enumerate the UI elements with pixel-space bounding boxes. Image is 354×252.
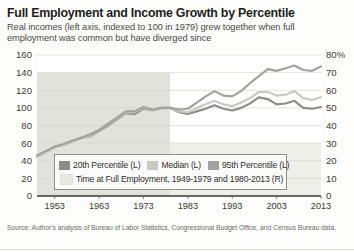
y2-axis-tick-label: 60 <box>326 85 337 96</box>
y-axis-tick-label: 60 <box>21 138 32 149</box>
x-axis-tick-label: 1983 <box>178 201 198 211</box>
y-axis-tick-label: 40 <box>21 156 32 167</box>
x-axis-tick-label: 1953 <box>45 201 65 211</box>
y2-axis-tick-label: 0 <box>326 191 331 202</box>
x-axis-tick-label: 1973 <box>133 201 153 211</box>
legend-label-median: Median (L) <box>161 160 201 170</box>
legend-swatch-median <box>147 161 158 170</box>
y2-axis-tick-label: 30 <box>326 138 337 149</box>
y-axis-tick-label: 120 <box>16 85 32 96</box>
legend-swatch-full-employment <box>60 174 73 185</box>
source-note: Source: Author's analysis of Bureau of L… <box>7 224 337 232</box>
x-axis-tick-label: 2003 <box>266 201 286 211</box>
legend-row-primary: 20th Percentile (L) Median (L) 95th Perc… <box>59 158 282 172</box>
legend-label-95th: 95th Percentile (L) <box>222 160 289 170</box>
y-axis-tick-label: 160 <box>16 50 32 61</box>
y2-axis-tick-label: 50 <box>326 103 337 114</box>
legend-swatch-20th <box>59 161 70 170</box>
y-axis-tick-label: 20 <box>21 173 32 184</box>
y2-axis-tick-label: 10 <box>326 173 337 184</box>
y2-axis-tick-label: 80% <box>326 50 346 61</box>
x-axis-tick-label: 1993 <box>222 201 242 211</box>
y2-axis-tick-label: 20 <box>326 156 337 167</box>
chart-legend: 20th Percentile (L) Median (L) 95th Perc… <box>54 154 287 190</box>
chart-subtitle: Real incomes (left axis, indexed to 100 … <box>7 22 337 44</box>
x-axis-tick-label: 1963 <box>89 201 109 211</box>
footer-divider <box>0 249 354 250</box>
page-title: Full Employment and Income Growth by Per… <box>7 6 348 20</box>
chart-page: Full Employment and Income Growth by Per… <box>0 0 354 252</box>
legend-row-band: Time at Full Employment, 1949-1979 and 1… <box>59 172 282 186</box>
chart-area: 02040608010012014016001020304050607080%1… <box>6 46 348 214</box>
y-axis-tick-label: 140 <box>16 67 32 78</box>
y2-axis-tick-label: 40 <box>326 120 337 131</box>
y-axis-tick-label: 100 <box>16 103 32 114</box>
x-axis-tick-label: 2013 <box>311 201 331 211</box>
y2-axis-tick-label: 70 <box>326 67 337 78</box>
legend-label-full-employment: Time at Full Employment, 1949-1979 and 1… <box>76 174 283 184</box>
legend-label-20th: 20th Percentile (L) <box>73 160 140 170</box>
y-axis-tick-label: 0 <box>27 191 32 202</box>
y-axis-tick-label: 80 <box>21 120 32 131</box>
legend-swatch-95th <box>208 161 219 170</box>
